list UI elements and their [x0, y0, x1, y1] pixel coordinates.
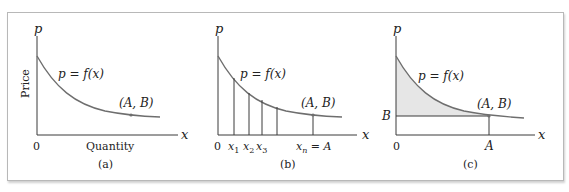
tick-label-x3: x3	[256, 140, 267, 155]
point-marker	[311, 113, 314, 116]
x-axis-label: x	[538, 127, 546, 142]
curve-label: p = f(x)	[58, 67, 104, 81]
panel-a: p x p = f(x) (A, B) 0 Quantity Price (a)	[19, 21, 189, 171]
tick-label-x2: x2	[243, 140, 254, 155]
x-axis-label: x	[181, 127, 189, 142]
x-tick-label-A: A	[484, 139, 494, 153]
curve-label: p = f(x)	[240, 67, 286, 81]
y-axis-label: p	[34, 21, 43, 36]
panel-c: p x p = f(x) (A, B) B A 0 (c)	[381, 21, 546, 171]
point-marker	[487, 114, 490, 117]
y-axis-label: p	[393, 21, 402, 36]
y-axis-title: Price	[19, 69, 32, 98]
panel-b: p x p = f(x) (A, B) 0 x1 x2 x3 xn = A (b…	[214, 21, 370, 171]
point-label: (A, B)	[119, 96, 154, 110]
curve-label: p = f(x)	[418, 69, 464, 83]
point-label: (A, B)	[477, 97, 512, 111]
tick-label-xn: xn = A	[296, 140, 332, 155]
x-axis-title: Quantity	[86, 140, 135, 153]
origin-label: 0	[393, 140, 400, 153]
figure-canvas: p x p = f(x) (A, B) 0 Quantity Price (a)…	[0, 0, 569, 192]
y-tick-label-B: B	[381, 109, 391, 123]
origin-label: 0	[214, 140, 221, 153]
point-marker	[129, 113, 132, 116]
point-label: (A, B)	[301, 96, 336, 110]
origin-label: 0	[33, 140, 40, 153]
shaded-area	[396, 56, 489, 116]
x-axis-label: x	[362, 127, 370, 142]
tick-label-x1: x1	[228, 140, 239, 155]
panel-caption: (a)	[98, 158, 113, 171]
y-axis-label: p	[215, 21, 224, 36]
panel-caption: (c)	[463, 158, 478, 171]
panel-caption: (b)	[280, 158, 296, 171]
